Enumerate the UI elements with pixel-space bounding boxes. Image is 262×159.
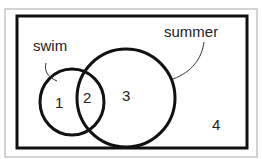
venn-diagram: swim summer 1 2 3 4	[0, 0, 262, 159]
region-2-label: 2	[83, 89, 91, 106]
swim-label: swim	[33, 37, 67, 54]
swim-circle	[40, 69, 104, 135]
outer-border	[5, 9, 257, 157]
summer-leader-line	[173, 42, 204, 79]
region-1-label: 1	[55, 94, 63, 111]
region-3-label: 3	[122, 87, 130, 104]
swim-leader-line	[45, 63, 57, 81]
summer-label: summer	[164, 23, 218, 40]
venn-diagram-svg: swim summer 1 2 3 4	[0, 0, 262, 159]
region-4-label: 4	[212, 116, 220, 133]
